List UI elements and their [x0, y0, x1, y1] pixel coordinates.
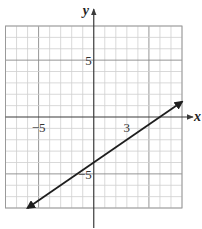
x-axis-label: x: [193, 109, 201, 124]
tick-label-x-neg5: −5: [32, 120, 46, 135]
coordinate-plane-chart: x y −535−5: [0, 0, 202, 229]
axes: x y: [6, 3, 202, 228]
tick-label-y-5: 5: [85, 53, 92, 68]
tick-label-x-3: 3: [124, 120, 131, 135]
y-axis-label: y: [81, 3, 90, 18]
